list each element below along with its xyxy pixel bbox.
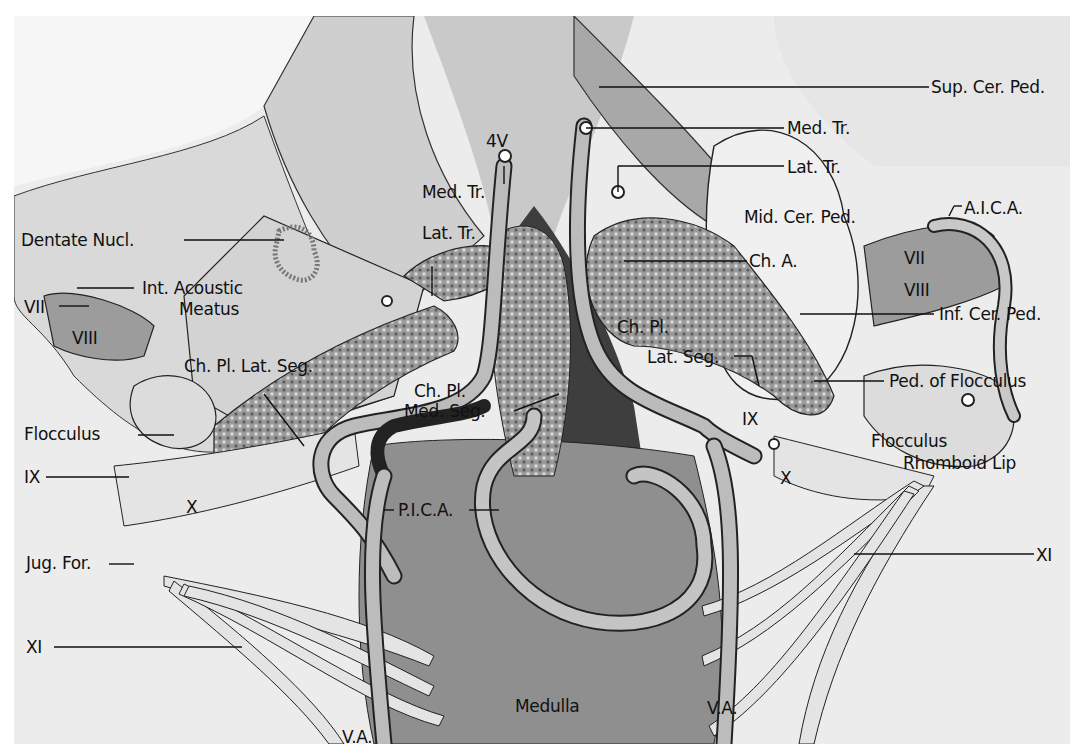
label-va-left: V.A. [342,728,372,744]
label-mid-cer-ped: Mid. Cer. Ped. [744,208,856,226]
label-ch-pl-med: Ch. Pl. [414,382,466,400]
label-4v: 4V [486,132,508,150]
label-pica: P.I.C.A. [398,501,453,519]
label-med-tr-right: Med. Tr. [787,119,850,137]
label-rhomboid-lip: Rhomboid Lip [903,454,1016,472]
label-med-seg: Med. Seg. [404,402,485,420]
label-medulla: Medulla [515,697,579,715]
label-ix-right: IX [742,410,758,428]
label-vii-left: VII [24,298,45,316]
label-lat-seg-right: Lat. Seg. [647,348,719,366]
label-x-right: X [780,469,791,487]
label-aica: A.I.C.A. [964,199,1023,217]
label-meatus: Meatus [179,300,239,318]
label-ix-left: IX [24,468,40,486]
label-med-tr-left: Med. Tr. [422,183,485,201]
label-vii-right: VII [904,249,925,267]
label-flocculus-left: Flocculus [24,425,100,443]
label-dentate-nucl: Dentate Nucl. [21,231,134,249]
label-ch-a: Ch. A. [749,252,797,270]
label-xi-right: XI [1036,546,1052,564]
label-xi-left: XI [26,638,42,656]
label-ped-of-flocculus: Ped. of Flocculus [889,372,1026,390]
label-va-right: V.A. [707,699,737,717]
label-sup-cer-ped: Sup. Cer. Ped. [931,78,1045,96]
label-inf-cer-ped: Inf. Cer. Ped. [939,305,1041,323]
label-lat-tr-left: Lat. Tr. [422,224,476,242]
label-jug-for: Jug. For. [26,554,91,572]
label-ch-pl-right: Ch. Pl. [617,318,669,336]
label-ch-pl-lat-seg: Ch. Pl. Lat. Seg. [184,357,313,375]
label-viii-right: VIII [904,281,929,299]
anatomical-illustration: Sup. Cer. Ped. Med. Tr. Lat. Tr. 4V Med.… [14,16,1070,744]
label-x-left: X [186,498,197,516]
label-viii-left: VIII [72,329,97,347]
label-flocculus-right: Flocculus [871,432,947,450]
label-int-acoustic: Int. Acoustic [142,279,243,297]
label-lat-tr-right: Lat. Tr. [787,158,841,176]
